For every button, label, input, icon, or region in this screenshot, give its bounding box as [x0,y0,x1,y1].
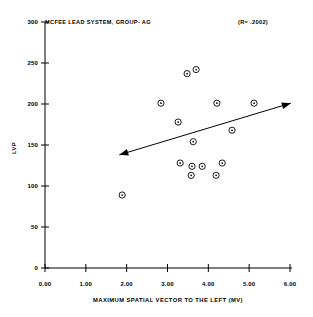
x-tick-label: 0.00 [39,281,52,287]
data-point-center [215,174,217,176]
data-point-center [121,194,123,196]
y-axis-label: LVP [11,142,17,154]
data-point-center [160,102,162,104]
x-tick-label: 1.00 [80,281,93,287]
correlation-annotation: (R= .2002) [238,19,268,25]
y-tick-label: 250 [27,60,38,66]
y-tick-label: 50 [31,224,39,230]
y-tick-label: 200 [27,101,38,107]
data-point-center [221,162,223,164]
data-point-center [231,129,233,131]
data-point-center [192,141,194,143]
data-point-center [195,69,197,71]
x-tick-label: 3.00 [161,281,174,287]
data-point-center [253,102,255,104]
chart-title: MCFEE LEAD SYSTEM, GROUP- AG [45,19,151,25]
y-tick-label: 100 [27,183,38,189]
data-point-center [179,162,181,164]
chart-canvas: MCFEE LEAD SYSTEM, GROUP- AG (R= .2002) … [0,0,313,317]
y-tick-label: 300 [27,19,38,25]
data-point-center [190,174,192,176]
x-tick-label: 6.00 [284,281,297,287]
data-point-center [201,165,203,167]
chart-background [0,0,313,317]
data-point-center [186,73,188,75]
x-tick-label: 2.00 [120,281,133,287]
x-tick-label: 4.00 [202,281,215,287]
data-point-center [177,121,179,123]
y-tick-label: 150 [27,142,38,148]
x-axis-label: MAXIMUM SPATIAL VECTOR TO THE LEFT (MV) [93,297,243,303]
data-point-center [191,165,193,167]
x-tick-label: 5.00 [243,281,256,287]
data-point-center [216,102,218,104]
y-tick-label: 0 [34,265,38,271]
scatter-plot-figure: MCFEE LEAD SYSTEM, GROUP- AG (R= .2002) … [0,0,313,317]
